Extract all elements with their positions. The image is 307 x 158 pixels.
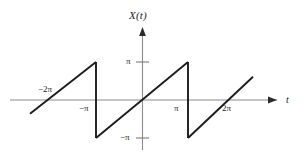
sawtooth-ramp-right-partial [188, 77, 253, 138]
t-axis-arrowhead [268, 97, 277, 104]
horizontal-axis-label: t [286, 95, 289, 105]
tick-label-neg-2pi: −2π [38, 85, 52, 94]
tick-label-pos-pi: π [174, 104, 179, 113]
tick-label-neg-pi: −π [79, 104, 89, 113]
x-axis-group [139, 27, 146, 150]
figure-container: X(t) t −2π −π π 2π π −π [0, 0, 307, 158]
sawtooth-plot [0, 0, 307, 158]
x-axis-arrowhead [139, 27, 146, 36]
tick-label-x-neg-pi: −π [120, 133, 130, 142]
vertical-axis-label: X(t) [129, 10, 147, 21]
tick-label-pos-2pi: 2π [222, 104, 231, 113]
tick-label-x-pos-pi: π [126, 57, 131, 66]
